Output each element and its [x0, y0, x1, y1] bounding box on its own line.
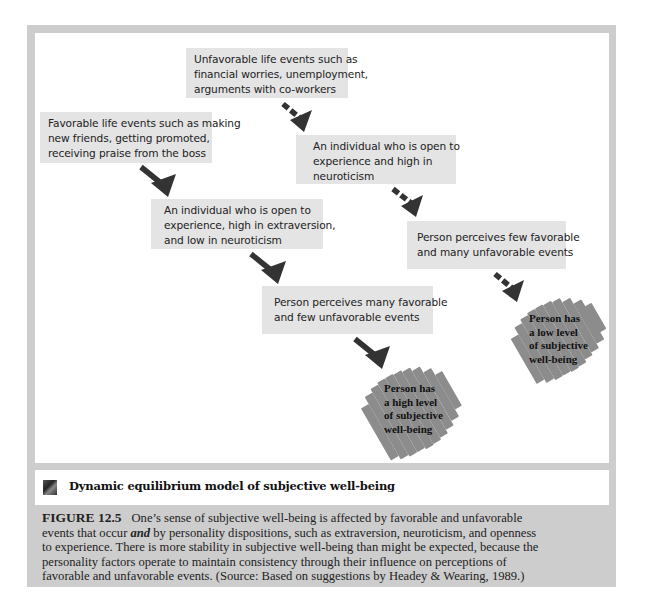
node-line: arguments with co-workers [194, 82, 340, 97]
caption-line: personality factors operate to maintain … [42, 555, 602, 570]
node-line: of subjective [384, 409, 443, 423]
node-line: a high level [384, 396, 443, 410]
node-line: Person perceives few favorable [417, 230, 558, 245]
node-line: Person has [384, 382, 443, 396]
figure-icon [43, 480, 57, 495]
node-perceives-few-favorable: Person perceives few favorable and many … [407, 221, 566, 269]
caption-label: FIGURE 12.5 [42, 510, 122, 525]
node-line: new friends, getting promoted, [48, 131, 204, 146]
caption-text: One’s sense of subjective well-being is … [132, 511, 523, 525]
node-line: Unfavorable life events such as [194, 52, 340, 67]
caption-emphasis: and [130, 526, 150, 540]
node-line: Person has [529, 312, 588, 326]
node-favorable-events: Favorable life events such as making new… [40, 112, 212, 163]
node-unfavorable-events: Unfavorable life events such as financia… [186, 48, 348, 98]
caption-text: by personality dispositions, such as ext… [150, 526, 536, 540]
figure-title-bar: Dynamic equilibrium model of subjective … [35, 470, 609, 505]
caption-line: events that occur and by personality dis… [42, 526, 602, 541]
node-line: and many unfavorable events [417, 245, 558, 260]
node-line: and low in neuroticism [164, 233, 315, 248]
node-open-extraverted-low-neuroticism: An individual who is open to experience,… [151, 199, 323, 249]
node-line: neuroticism [313, 169, 448, 184]
node-line: experience, high in extraversion, [164, 218, 315, 233]
node-line: receiving praise from the boss [48, 146, 204, 161]
node-line: An individual who is open to [164, 203, 315, 218]
node-line: a low level [529, 326, 588, 340]
node-high-wellbeing: Person has a high level of subjective we… [384, 382, 443, 436]
node-perceives-many-favorable: Person perceives many favorable and few … [262, 286, 433, 334]
figure-caption: FIGURE 12.5One’s sense of subjective wel… [42, 511, 602, 584]
caption-line: favorable and unfavorable events. (Sourc… [42, 569, 602, 584]
node-line: well-being [529, 353, 588, 367]
node-line: An individual who is open to [313, 139, 448, 154]
node-low-wellbeing: Person has a low level of subjective wel… [529, 312, 588, 366]
node-line: Favorable life events such as making [48, 116, 204, 131]
node-line: financial worries, unemployment, [194, 67, 340, 82]
node-open-high-neuroticism: An individual who is open to experience … [296, 135, 456, 184]
figure-title: Dynamic equilibrium model of subjective … [69, 479, 395, 493]
node-line: experience and high in [313, 154, 448, 169]
caption-line: FIGURE 12.5One’s sense of subjective wel… [42, 511, 602, 526]
caption-line: to experience. There is more stability i… [42, 540, 602, 555]
node-line: and few unfavorable events [274, 310, 425, 325]
caption-text: events that occur [42, 526, 130, 540]
node-line: of subjective [529, 339, 588, 353]
node-line: well-being [384, 423, 443, 437]
node-line: Person perceives many favorable [274, 295, 425, 310]
